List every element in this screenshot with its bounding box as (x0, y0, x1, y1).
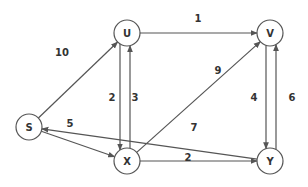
node-y: Y (257, 148, 283, 174)
node-label: U (123, 28, 131, 39)
node-s: S (16, 114, 42, 140)
nodes-layer: SUVXY (16, 20, 283, 174)
node-label: X (123, 156, 131, 167)
edge-line (41, 131, 114, 156)
edge-weight-label: 2 (109, 92, 116, 103)
edge-y-to-s (42, 129, 257, 159)
node-v: V (257, 20, 283, 46)
edge-weight-label: 4 (251, 92, 258, 103)
graph-diagram: 10512394627 SUVXY (0, 0, 308, 187)
node-label: S (25, 122, 32, 133)
edge-weight-label: 3 (132, 92, 139, 103)
edge-weight-label: 10 (55, 47, 69, 58)
edges-layer (38, 33, 276, 161)
node-label: Y (265, 156, 274, 167)
edge-line (38, 42, 117, 118)
edge-line (137, 42, 261, 153)
edge-weight-label: 7 (191, 122, 198, 133)
edge-weight-label: 1 (195, 13, 202, 24)
edge-line (42, 129, 257, 159)
edge-s-to-x (41, 131, 114, 156)
edge-weight-label: 6 (289, 92, 296, 103)
edge-weight-label: 9 (215, 65, 222, 76)
edge-weight-label: 2 (185, 152, 192, 163)
node-u: U (114, 20, 140, 46)
edge-x-to-v (137, 42, 261, 153)
edge-s-to-u (38, 42, 117, 118)
node-label: V (266, 28, 274, 39)
node-x: X (114, 148, 140, 174)
edge-weight-label: 5 (67, 118, 74, 129)
